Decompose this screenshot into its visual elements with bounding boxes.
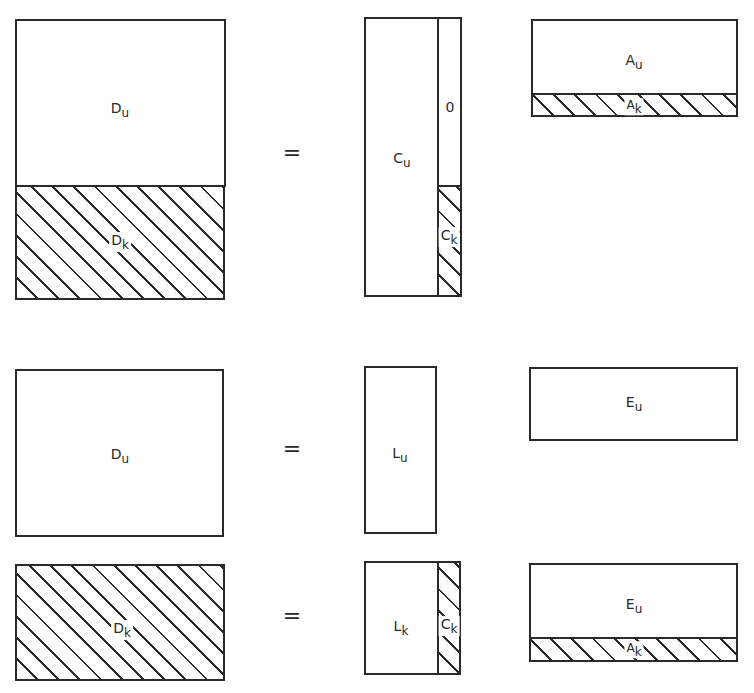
- label-d-k-row3: Dk: [111, 620, 133, 640]
- label-e-u-row3: Eu: [626, 596, 642, 616]
- label-d-u-row2: Du: [111, 446, 129, 466]
- label-zero: 0: [446, 99, 455, 115]
- label-d-u: Du: [111, 100, 129, 120]
- equals-sign-row2: =: [283, 436, 301, 461]
- label-a-k-row3: Ak: [624, 641, 643, 658]
- label-l-k: Lk: [394, 618, 409, 638]
- equals-sign: =: [283, 140, 301, 165]
- label-c-k-row3: Ck: [439, 616, 460, 636]
- label-a-k: Ak: [624, 98, 643, 115]
- label-e-u-row2: Eu: [626, 394, 642, 414]
- label-d-k: Dk: [109, 232, 131, 252]
- label-l-u: Lu: [392, 445, 407, 465]
- label-c-k: Ck: [439, 227, 460, 247]
- label-a-u: Au: [625, 52, 642, 72]
- equals-sign-row3: =: [283, 603, 301, 628]
- label-c-u: Cu: [393, 150, 410, 170]
